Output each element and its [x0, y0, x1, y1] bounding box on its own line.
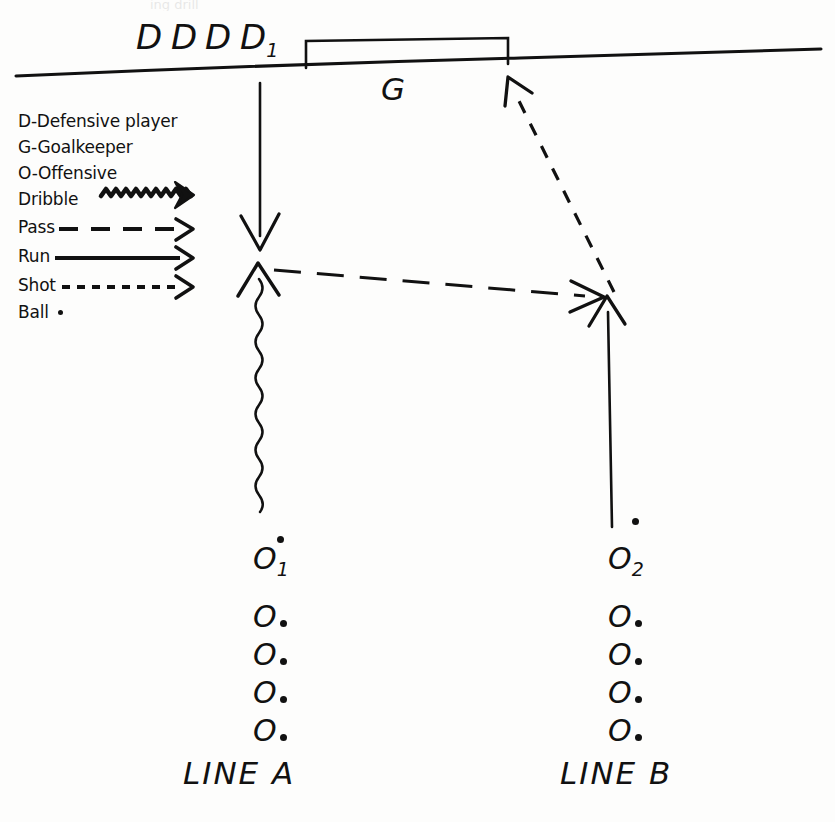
line-a-player-5: O	[253, 716, 277, 746]
ball-dot-b1	[632, 518, 639, 525]
legend-item-defensive-player: D-Defensive player	[18, 108, 218, 134]
legend-label-shot: Shot	[18, 275, 56, 295]
movement-defender-run	[241, 83, 279, 250]
line-b-player-4: O	[608, 678, 632, 708]
legend-label-dribble: Dribble	[18, 189, 78, 209]
legend-item-offensive: O-Offensive	[18, 160, 218, 186]
line-a-player-4: O	[253, 678, 277, 708]
line-a-player-3: O	[253, 640, 277, 670]
legend-item-goalkeeper: G-Goalkeeper	[18, 134, 218, 160]
line-a-label: LINE A	[183, 758, 295, 789]
ball-dot-b5	[635, 734, 642, 741]
line-b-player-5: O	[608, 716, 632, 746]
line-a-player-2: O	[253, 602, 277, 632]
movement-shot	[505, 77, 614, 292]
line-b-player-1-text: O	[608, 541, 632, 576]
ball-dot-b4	[635, 696, 642, 703]
drill-diagram-canvas: ing drill	[0, 0, 835, 822]
legend-item-ball: Ball	[18, 299, 218, 325]
ball-dot-a4	[280, 696, 287, 703]
ball-dot-b3	[635, 658, 642, 665]
legend-item-run: Run	[18, 241, 218, 270]
ball-dot-a1	[277, 536, 284, 543]
movement-pass	[274, 270, 604, 312]
line-b-player-3: O	[608, 640, 632, 670]
legend-item-dribble: Dribble	[18, 186, 218, 212]
legend-ball-dot-icon	[58, 310, 63, 315]
line-a-player-1-sub: 1	[277, 558, 289, 580]
line-b-label: LINE B	[560, 758, 672, 789]
defender-label-4-sub: 1	[266, 39, 278, 61]
line-b-player-2: O	[608, 602, 632, 632]
ball-dot-b2	[635, 620, 642, 627]
legend-label-ball: Ball	[18, 302, 49, 322]
ball-dot-a2	[280, 620, 287, 627]
defender-label-4: D1	[240, 20, 278, 60]
legend-label-defensive-player: D-Defensive player	[18, 111, 177, 131]
legend-item-shot: Shot	[18, 270, 218, 299]
line-a-player-1: O1	[253, 544, 289, 579]
ball-dot-a3	[280, 658, 287, 665]
ball-dot-a5	[280, 734, 287, 741]
line-a-player-1-text: O	[253, 541, 277, 576]
defender-label-2: D	[171, 20, 197, 54]
legend-label-run: Run	[18, 246, 50, 266]
legend-label-pass: Pass	[18, 217, 55, 237]
legend: D-Defensive player G-Goalkeeper O-Offens…	[18, 108, 218, 325]
defender-label-4-text: D	[240, 17, 266, 57]
movement-o1-dribble	[238, 263, 279, 512]
defender-label-3: D	[205, 20, 231, 54]
goalkeeper-label: G	[381, 74, 405, 105]
legend-item-pass: Pass	[18, 212, 218, 241]
line-b-player-1: O2	[608, 544, 644, 579]
movement-o2-run	[589, 296, 625, 527]
legend-label-goalkeeper: G-Goalkeeper	[18, 137, 133, 157]
line-b-player-1-sub: 2	[632, 558, 644, 580]
legend-label-offensive: O-Offensive	[18, 163, 117, 183]
defender-label-1: D	[136, 20, 162, 54]
